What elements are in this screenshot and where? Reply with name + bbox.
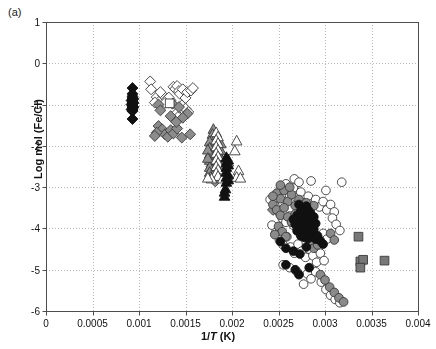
- x-tick-label: 0.001: [126, 318, 151, 329]
- x-tick-label: 0: [43, 318, 49, 329]
- y-tick-label: 1: [20, 17, 40, 28]
- x-tick-label: 0.0015: [170, 318, 201, 329]
- y-tick-label: 0: [20, 58, 40, 69]
- y-tick-label: -1: [20, 99, 40, 110]
- figure-panel-a: (a) Log mol (Fe/Cl) 1/T (K) 00.00050.001…: [0, 0, 436, 349]
- x-tick-label: 0.003: [312, 318, 337, 329]
- x-tick-label: 0.0025: [263, 318, 294, 329]
- y-tick-label: -6: [20, 306, 40, 317]
- x-axis-label: 1/T (K): [0, 330, 436, 342]
- y-tick-label: -4: [20, 223, 40, 234]
- x-tick-label: 0.0035: [356, 318, 387, 329]
- y-tick-label: -5: [20, 264, 40, 275]
- y-tick-label: -3: [20, 182, 40, 193]
- y-tick-label: -2: [20, 140, 40, 151]
- scatter-plot-canvas: [0, 0, 436, 349]
- x-tick-label: 0.0005: [77, 318, 108, 329]
- x-tick-label: 0.002: [219, 318, 244, 329]
- x-tick-label: 0.004: [405, 318, 430, 329]
